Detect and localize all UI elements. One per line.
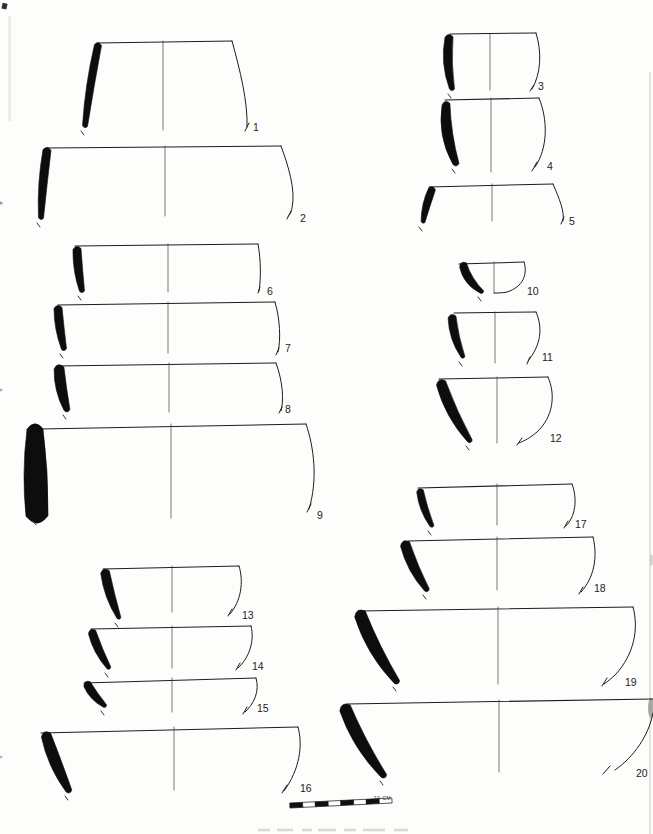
scan-speck [0,389,2,392]
sherd-cross-section [41,732,71,793]
rim-line [75,244,258,246]
break-tick [428,531,431,535]
vessel-4-number-label: 4 [547,160,553,172]
scale-bar-segment [315,801,328,807]
vessel-5-drawing: 5 [419,184,575,231]
right-profile-outline [276,363,283,413]
rim-line [429,184,553,187]
vessel-3-number-label: 3 [538,80,544,92]
vessel-4-drawing: 4 [441,98,553,173]
rim-line [459,262,524,264]
rim-line [418,484,572,488]
vessel-12-drawing: 12 [437,377,562,450]
vessel-7-number-label: 7 [285,342,291,354]
vessel-16-drawing: 16 [41,727,312,800]
sherd-cross-section [437,380,473,443]
sherd-cross-section [101,569,121,619]
sherd-cross-section [73,246,85,292]
break-tick [65,796,68,800]
right-profile-outline [517,377,552,445]
right-profile-outline [564,484,575,528]
break-tick [423,595,426,599]
vessel-1-number-label: 1 [253,121,259,133]
right-profile-outline [579,537,595,594]
vessel-2-drawing: 2 [37,146,306,227]
scan-speck [0,201,3,204]
vessel-1-drawing: 1 [81,41,259,135]
rim-line [41,727,298,733]
right-profile-outline [281,146,293,219]
vessel-12-number-label: 12 [550,432,562,444]
vessel-9-number-label: 9 [317,509,323,521]
sherd-cross-section [355,610,400,684]
sherd-cross-section [401,541,430,592]
vessel-19-number-label: 19 [625,676,637,688]
vessel-8-number-label: 8 [285,403,291,415]
vessel-9-drawing: 9 [24,424,323,525]
vessel-17-number-label: 17 [575,518,587,530]
vessel-16-number-label: 16 [300,782,312,794]
vessel-14-drawing: 14 [88,626,263,677]
break-tick [115,623,118,627]
sherd-cross-section [448,314,465,358]
scale-bar-label: 10 CM [374,795,391,801]
break-tick [60,354,63,358]
right-profile-outline [232,41,249,131]
rim-line [445,98,539,100]
right-profile-outline [275,302,280,355]
scan-speck [0,756,2,759]
vessel-7-drawing: 7 [54,302,291,358]
sherd-cross-section [417,489,434,528]
rim-line [103,566,239,569]
vessel-13-drawing: 13 [101,566,254,627]
break-tick [380,781,383,785]
break-tick [459,362,462,366]
break-tick [419,227,422,231]
right-profile-outline [306,424,314,512]
vessel-2-number-label: 2 [300,212,306,224]
scale-bar-segment [328,801,341,807]
rim-line [347,699,653,704]
scale-bar-segment [303,802,316,808]
scan-speck [1,3,7,10]
rim-line [91,626,251,629]
vessel-15-number-label: 15 [257,702,269,714]
scale-bar-segment [341,800,354,806]
vessel-19-drawing: 19 [355,607,637,691]
vessel-14-number-label: 14 [252,660,264,672]
right-profile-outline [602,607,635,686]
sherd-cross-section [460,262,484,293]
rim-line [358,607,633,611]
rim-line [84,678,256,683]
rim-line [450,33,536,34]
scale-bar-segment [290,802,303,808]
vessel-18-number-label: 18 [594,582,606,594]
sherd-cross-section [340,704,387,778]
sherd-cross-section [441,101,459,166]
scan-artifacts [0,3,653,834]
sherd-cross-section [421,187,435,224]
break-tick [393,687,396,691]
rim-line [408,537,593,541]
break-tick [63,415,66,419]
vessel-15-drawing: 15 [84,678,269,715]
vessel-3-drawing: 3 [443,33,544,98]
vessel-11-drawing: 11 [448,312,553,366]
rim-line [47,146,281,148]
right-profile-outline [603,713,653,774]
vessel-13-number-label: 13 [242,609,254,621]
rim-line [58,302,275,305]
scale-bar-segment [353,799,366,805]
vessel-20-drawing: 20 [340,699,653,785]
right-profile-outline [532,98,545,171]
scale-bar: 10 CM [290,795,392,808]
vessel-18-drawing: 18 [401,537,606,599]
vessel-6-drawing: 6 [73,244,273,300]
vessel-11-number-label: 11 [542,351,553,363]
right-profile-outline [236,626,252,670]
break-tick [37,223,40,227]
rim-line [57,363,276,366]
sherd-cross-section [38,147,51,219]
vessel-10-drawing: 10 [459,262,539,301]
vessel-6-number-label: 6 [267,285,273,297]
